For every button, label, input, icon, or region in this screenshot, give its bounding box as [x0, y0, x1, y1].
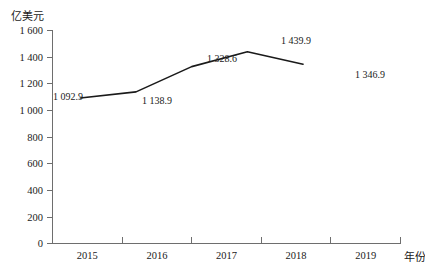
y-axis-title: 亿美元: [11, 10, 44, 22]
x-tick-label-2018: 2018: [286, 250, 307, 261]
data-label-2018: 1 439.9: [281, 35, 311, 46]
y-tick-label-1200: 1 200: [19, 78, 43, 89]
y-tick-label-1400: 1 400: [19, 52, 43, 63]
x-tick-label-2015: 2015: [77, 250, 98, 261]
x-tick-label-2017: 2017: [216, 250, 237, 261]
data-label-2015: 1 092.9: [53, 91, 83, 102]
y-tick-label-800: 800: [27, 132, 43, 143]
data-series-line: [80, 52, 303, 98]
data-label-2016: 1 138.9: [142, 95, 172, 106]
data-label-2019: 1 346.9: [355, 69, 385, 80]
y-tick-label-600: 600: [27, 158, 43, 169]
y-tick-label-200: 200: [27, 212, 43, 223]
y-tick-label-0: 0: [38, 238, 43, 249]
x-axis-title: 年份: [404, 250, 425, 263]
y-tick-label-1600: 1 600: [19, 25, 43, 36]
data-label-2017: 1 328.6: [207, 53, 237, 64]
y-tick-label-1000: 1 000: [19, 105, 43, 116]
y-tick-label-400: 400: [27, 185, 43, 196]
x-tick-label-2016: 2016: [146, 250, 167, 261]
chart-canvas: 亿美元 1 600 1 400 1 200 1 000 800 600 400 …: [0, 0, 425, 274]
x-tick-label-2019: 2019: [355, 250, 376, 261]
line-chart-container: 亿美元 1 600 1 400 1 200 1 000 800 600 400 …: [0, 0, 425, 274]
